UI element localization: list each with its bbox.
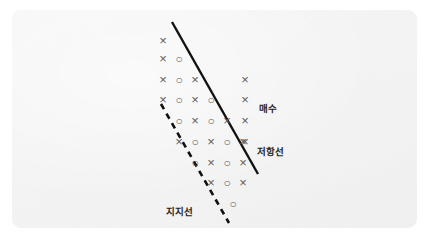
- buy-label: 매수: [259, 101, 277, 115]
- pnf-x-mark: ×: [156, 52, 170, 66]
- pnf-o-mark: ○: [172, 93, 186, 107]
- figure-root: ××○×○××○×○○×○××○×○×○×○××○×○×××× 매수저항선지지선: [0, 0, 429, 237]
- pnf-x-mark: ×: [238, 135, 252, 149]
- pnf-o-mark: ○: [188, 135, 202, 149]
- pnf-x-mark: ×: [204, 156, 218, 170]
- pnf-x-mark: ×: [204, 135, 218, 149]
- pnf-x-mark: ×: [156, 34, 170, 48]
- pnf-x-mark: ×: [238, 73, 252, 87]
- pnf-x-mark: ×: [188, 73, 202, 87]
- pnf-x-mark: ×: [204, 176, 218, 190]
- pnf-x-mark: ×: [188, 114, 202, 128]
- pnf-o-mark: ○: [220, 156, 234, 170]
- pnf-o-mark: ○: [220, 135, 234, 149]
- pnf-o-mark: ○: [172, 114, 186, 128]
- pnf-o-mark: ○: [204, 93, 218, 107]
- pnf-x-mark: ×: [156, 93, 170, 107]
- pnf-x-mark: ×: [172, 135, 186, 149]
- pnf-x-mark: ×: [188, 93, 202, 107]
- support-label: 지지선: [166, 204, 192, 218]
- pnf-x-mark: ×: [236, 156, 250, 170]
- resistance-label: 저항선: [257, 144, 283, 158]
- pnf-o-mark: ○: [172, 52, 186, 66]
- pnf-x-mark: ×: [236, 176, 250, 190]
- pnf-x-mark: ×: [156, 73, 170, 87]
- pnf-o-mark: ○: [172, 73, 186, 87]
- pnf-o-mark: ○: [188, 156, 202, 170]
- pnf-o-mark: ○: [220, 176, 234, 190]
- pnf-o-mark: ○: [226, 197, 240, 211]
- pnf-x-mark: ×: [238, 93, 252, 107]
- pnf-x-mark: ×: [220, 114, 234, 128]
- pnf-x-mark: ×: [238, 114, 252, 128]
- pnf-o-mark: ○: [204, 114, 218, 128]
